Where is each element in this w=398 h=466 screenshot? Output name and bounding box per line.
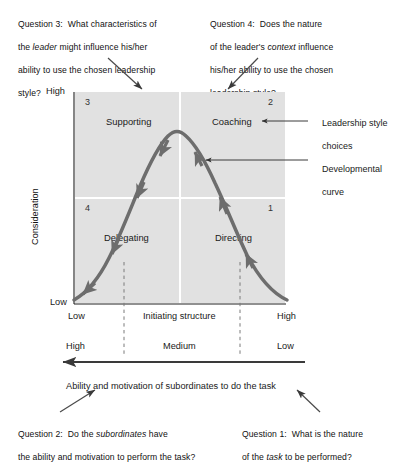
quadrant-number-3: 3 (85, 97, 90, 107)
question-2-line2: the ability and motivation to perform th… (18, 452, 195, 462)
question-1-label: Question 1: (242, 429, 287, 439)
pointer-question-1 (297, 390, 320, 412)
annotation-curve-line1: Developmental (322, 164, 382, 174)
question-4-emphasis: context (267, 42, 295, 52)
quadrant-number-2: 2 (268, 97, 273, 107)
question-1-line1: What is the nature (287, 429, 363, 439)
question-4-line2b: influence (296, 42, 334, 52)
x-axis-mid-label: Initiating structure (143, 311, 216, 321)
x-axis-low-label: Low (68, 311, 85, 321)
question-2-emphasis: subordinates (96, 429, 146, 439)
secondary-axis-high-label: High (66, 341, 85, 351)
y-axis-low-label: Low (50, 297, 67, 307)
quadrant-label-directing: Directing (215, 232, 252, 243)
question-3-line2b: might influence his/her (57, 42, 147, 52)
quadrant-number-1: 1 (268, 203, 273, 213)
y-axis-high-label: High (46, 86, 65, 96)
quadrant-label-coaching: Coaching (212, 116, 252, 127)
question-3-line4: style? (18, 88, 41, 98)
question-2-text: Question 2: Do the subordinates have the… (8, 418, 195, 466)
annotation-developmental-curve: Developmental curve (312, 152, 382, 210)
secondary-axis-caption: Ability and motivation of subordinates t… (66, 381, 276, 391)
secondary-axis-low-label: Low (277, 341, 294, 351)
question-3-line1: What characteristics of (63, 19, 157, 29)
question-1-line2a: of the (242, 452, 267, 462)
quadrant-label-supporting: Supporting (106, 116, 151, 127)
question-3-label: Question 3: (18, 19, 63, 29)
quadrant-label-delegating: Delegating (104, 232, 149, 243)
annotation-curve-line2: curve (322, 187, 344, 197)
quadrant-divider-horizontal (75, 197, 285, 199)
question-2-label: Question 2: (18, 429, 63, 439)
y-axis-title: Consideration (30, 188, 40, 245)
question-4-label: Question 4: (210, 19, 255, 29)
question-1-emphasis: task (266, 452, 282, 462)
question-1-text: Question 1: What is the nature of the ta… (232, 418, 363, 466)
question-4-line1: Does the nature (255, 19, 322, 29)
secondary-axis-medium-label: Medium (163, 341, 196, 351)
question-3-line2a: the (18, 42, 33, 52)
question-2-line1a: Do the (63, 429, 96, 439)
annotation-leadership-line1: Leadership style (322, 118, 388, 128)
question-1-line2b: to be performed? (283, 452, 352, 462)
question-3-line3: ability to use the chosen leadership (18, 65, 155, 75)
question-3-emphasis: leader (33, 42, 57, 52)
quadrant-number-4: 4 (85, 203, 90, 213)
question-4-line3: his/her ability to use the chosen (210, 65, 333, 75)
pointer-question-2 (60, 390, 95, 412)
annotation-leadership-line2: choices (322, 141, 353, 151)
x-axis-high-label: High (277, 311, 296, 321)
question-4-line2a: of the leader's (210, 42, 267, 52)
question-2-line1b: have (146, 429, 167, 439)
